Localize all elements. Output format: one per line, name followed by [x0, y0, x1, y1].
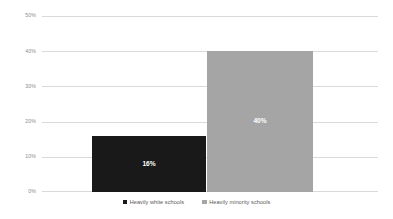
legend-item-heavily-white-schools[interactable]: Heavily white schools [123, 199, 185, 205]
bar-heavily-white-schools[interactable]: 16% [92, 136, 206, 192]
y-axis-tick-label-30: 30% [2, 84, 36, 89]
y-axis-tick-label-50: 50% [2, 13, 36, 18]
y-axis-tick-label-20: 20% [2, 119, 36, 124]
bar-heavily-minority-schools[interactable]: 40% [207, 51, 313, 192]
legend-label-heavily-minority-schools: Heavily minority schools [209, 199, 270, 205]
legend-swatch-icon-heavily-white-schools [123, 200, 128, 205]
plot-area: 16% 40% [42, 16, 378, 192]
gridline-50 [42, 16, 378, 17]
legend-label-heavily-white-schools: Heavily white schools [130, 199, 185, 205]
bar-value-label-heavily-minority-schools: 40% [207, 117, 313, 124]
chart-legend: Heavily white schools Heavily minority s… [0, 199, 393, 205]
y-axis-tick-label-10: 10% [2, 154, 36, 159]
y-axis-tick-label-40: 40% [2, 49, 36, 54]
bar-chart: 50% 40% 30% 20% 10% 0% 16% 40% Heavily w… [0, 0, 393, 219]
y-axis-tick-label-0: 0% [2, 189, 36, 194]
legend-item-heavily-minority-schools[interactable]: Heavily minority schools [202, 199, 270, 205]
bar-value-label-heavily-white-schools: 16% [92, 160, 206, 167]
legend-swatch-icon-heavily-minority-schools [202, 200, 207, 205]
